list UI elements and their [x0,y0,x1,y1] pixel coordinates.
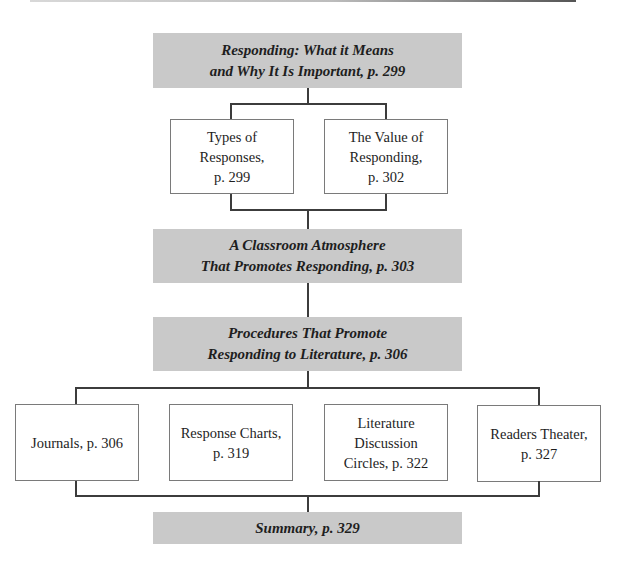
subsection-text: Discussion [354,433,418,453]
subsection-box-literature-discussion-circles: Literature Discussion Circles, p. 322 [324,404,448,481]
subsection-box-response-charts: Response Charts, p. 319 [169,404,293,481]
section-title-line1: Procedures That Promote [228,323,387,344]
subsection-box-readers-theater: Readers Theater, p. 327 [477,405,601,482]
subsection-text: p. 327 [521,444,557,464]
section-title-line1: A Classroom Atmosphere [229,235,385,256]
subsection-text: p. 302 [368,167,404,187]
subsection-text: Response Charts, [181,423,282,443]
subsection-box-journals: Journals, p. 306 [15,404,139,481]
section-title-line1: Responding: What it Means [221,40,394,61]
connector [307,371,309,388]
connector [75,387,540,389]
section-title-line2: That Promotes Responding, p. 303 [201,256,414,277]
connector [75,387,77,405]
page-top-rule [30,0,576,2]
subsection-text: Readers Theater, [490,424,587,444]
connector [385,103,387,120]
connector [307,209,309,229]
connector [230,103,387,105]
subsection-text: p. 319 [213,443,249,463]
connector [230,103,232,120]
subsection-text: Literature [357,413,414,433]
connector [538,387,540,405]
section-title-line1: Summary, p. 329 [255,518,359,539]
subsection-text: Journals, p. 306 [31,433,123,453]
subsection-text: Responses, [200,147,265,167]
section-box-responding: Responding: What it Means and Why It Is … [153,33,462,88]
subsection-text: Types of [207,127,257,147]
subsection-text: p. 299 [214,167,250,187]
subsection-text: Responding, [350,147,423,167]
subsection-text: Circles, p. 322 [344,453,429,473]
connector [307,283,309,317]
subsection-text: The Value of [349,127,424,147]
section-box-classroom-atmosphere: A Classroom Atmosphere That Promotes Res… [153,229,462,283]
subsection-box-types-of-responses: Types of Responses, p. 299 [170,119,294,194]
section-title-line2: and Why It Is Important, p. 299 [210,61,406,82]
section-box-procedures: Procedures That Promote Responding to Li… [153,317,462,371]
subsection-box-value-of-responding: The Value of Responding, p. 302 [324,119,448,194]
section-title-line2: Responding to Literature, p. 306 [207,344,407,365]
section-box-summary: Summary, p. 329 [153,512,462,544]
connector [307,495,309,512]
